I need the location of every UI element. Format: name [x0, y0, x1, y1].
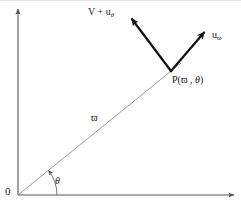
theta-angle-label: θ: [55, 176, 60, 186]
point-p-marker: [170, 70, 173, 73]
uvarpi-label-subscript: ϖ: [217, 34, 222, 42]
diagram-canvas: [0, 0, 241, 208]
vector-v-plus-u-theta: [132, 19, 172, 72]
origin-label: 0: [5, 186, 11, 197]
vector-v-plus-u-theta-label: V + uθ: [88, 7, 114, 19]
vector-u-varpi-label: uϖ: [212, 30, 222, 42]
vtheta-label-main: V + u: [88, 6, 111, 17]
point-label-radius: ϖ: [181, 74, 188, 85]
point-label-suffix: ): [200, 74, 203, 85]
vector-u-varpi: [171, 32, 205, 71]
radius-line: [18, 63, 181, 195]
radius-label: ϖ: [91, 113, 98, 123]
polar-vector-diagram: 0 θ ϖ P(ϖ , θ) V + uθ uϖ: [0, 0, 241, 208]
point-p-label: P(ϖ , θ): [172, 75, 203, 85]
vtheta-label-subscript: θ: [111, 11, 114, 19]
point-label-prefix: P(: [172, 74, 181, 85]
point-label-separator: ,: [188, 74, 196, 85]
